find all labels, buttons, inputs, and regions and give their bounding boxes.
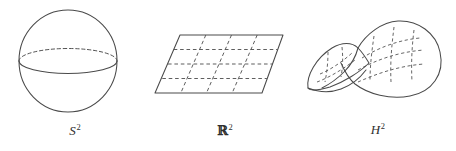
saddle-caption: H2 bbox=[300, 123, 456, 136]
sphere-equator-front bbox=[19, 61, 117, 74]
sphere-caption: S2 bbox=[0, 124, 150, 137]
plane-drawing bbox=[150, 0, 300, 120]
saddle-caption-exponent: 2 bbox=[381, 121, 385, 131]
saddle-drawing bbox=[300, 0, 456, 120]
figure-root: S2 ℝ2 bbox=[0, 0, 456, 151]
plane-caption-base: ℝ bbox=[217, 123, 228, 138]
saddle-left-lobe bbox=[308, 44, 369, 91]
sphere-outline bbox=[19, 10, 117, 112]
saddle-grid bbox=[317, 27, 424, 82]
saddle-grid-right-v1 bbox=[370, 36, 374, 82]
plane-panel: ℝ2 bbox=[150, 0, 300, 151]
sphere-caption-base: S bbox=[69, 123, 76, 138]
saddle-grid-left-u1 bbox=[320, 53, 352, 74]
sphere-caption-exponent: 2 bbox=[76, 122, 80, 132]
saddle-right-lobe bbox=[341, 21, 441, 97]
sphere-equator-back bbox=[19, 49, 117, 62]
saddle-grid-right-u1 bbox=[362, 38, 420, 58]
plane-caption-exponent: 2 bbox=[229, 122, 233, 132]
sphere-panel: S2 bbox=[0, 0, 150, 151]
plane-caption: ℝ2 bbox=[150, 124, 300, 137]
saddle-grid-left-v1 bbox=[325, 52, 328, 82]
saddle-grid-right-v3 bbox=[412, 30, 414, 82]
sphere-drawing bbox=[0, 0, 150, 120]
plane-outline bbox=[155, 35, 283, 93]
saddle-grid-right-v2 bbox=[391, 27, 394, 82]
saddle-panel: H2 bbox=[300, 0, 456, 151]
plane-grid bbox=[162, 35, 277, 93]
saddle-caption-base: H bbox=[371, 122, 381, 137]
